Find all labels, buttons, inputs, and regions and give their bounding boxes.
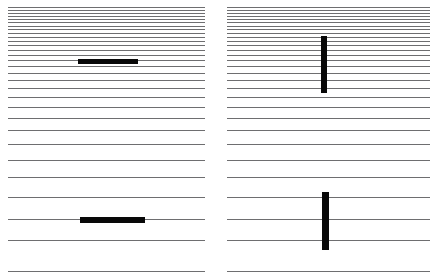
grid-rule	[227, 66, 430, 67]
grid-rule	[227, 60, 430, 61]
grid-rule	[8, 16, 205, 17]
grid-rule	[8, 33, 205, 34]
grid-rule	[227, 160, 430, 161]
grid-rule	[8, 271, 205, 272]
grid-rule	[227, 16, 430, 17]
grid-rule	[8, 240, 205, 241]
grid-rule	[8, 10, 205, 11]
grid-rule	[8, 41, 205, 42]
grid-rule	[8, 19, 205, 20]
grid-rule	[227, 107, 430, 108]
grid-rule	[227, 55, 430, 56]
right-panel	[227, 0, 430, 277]
grid-rule	[8, 130, 205, 131]
grid-rule	[227, 271, 430, 272]
grid-rule	[8, 13, 205, 14]
grid-rule	[8, 73, 205, 74]
grid-rule	[227, 19, 430, 20]
grid-rule	[227, 22, 430, 23]
grid-rule	[227, 41, 430, 42]
grid-rule	[8, 55, 205, 56]
grid-rule	[227, 45, 430, 46]
grid-rule	[8, 97, 205, 98]
grid-rule	[227, 88, 430, 89]
grid-rule	[8, 7, 205, 8]
grid-rule	[227, 10, 430, 11]
grid-rule	[8, 80, 205, 81]
grid-rule	[8, 197, 205, 198]
grid-rule	[227, 80, 430, 81]
grid-rule	[227, 33, 430, 34]
grid-rule	[8, 66, 205, 67]
grid-rule	[227, 97, 430, 98]
left-panel-lower-bar	[80, 217, 145, 223]
left-panel	[8, 0, 205, 277]
grid-rule	[227, 144, 430, 145]
grid-rule	[227, 130, 430, 131]
grid-rule	[227, 29, 430, 30]
grid-rule	[8, 118, 205, 119]
grid-rule	[227, 37, 430, 38]
grid-rule	[227, 13, 430, 14]
right-panel-upper-bar	[321, 36, 327, 93]
grid-rule	[227, 177, 430, 178]
right-panel-lower-bar	[322, 192, 329, 250]
grid-rule	[8, 29, 205, 30]
grid-rule	[227, 7, 430, 8]
grid-rule	[8, 26, 205, 27]
grid-rule	[227, 73, 430, 74]
left-panel-upper-bar	[78, 59, 138, 64]
grid-rule	[8, 177, 205, 178]
grid-rule	[8, 88, 205, 89]
grid-rule	[8, 144, 205, 145]
grid-rule	[227, 26, 430, 27]
grid-rule	[227, 118, 430, 119]
grid-rule	[8, 160, 205, 161]
grid-rule	[8, 107, 205, 108]
grid-rule	[8, 22, 205, 23]
grid-rule	[227, 50, 430, 51]
grid-rule	[8, 37, 205, 38]
grid-rule	[8, 45, 205, 46]
grid-rule	[8, 50, 205, 51]
diagram-canvas	[0, 0, 437, 277]
